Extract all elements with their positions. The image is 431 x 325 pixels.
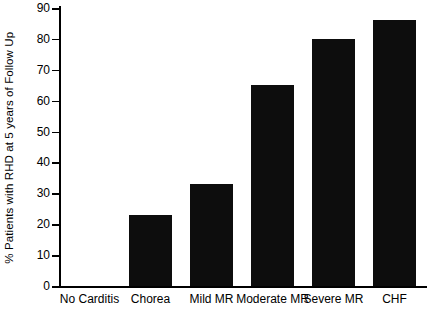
y-tick-mark [52,70,59,72]
y-tick-label: 50 [37,126,50,138]
x-tick-label: Moderate MR [236,292,309,306]
y-tick-label: 40 [37,156,50,168]
bar-chart-figure: % Patients with RHD at 5 years of Follow… [0,0,431,325]
y-tick-mark [52,101,59,103]
bar [190,184,233,286]
bar [373,20,416,286]
x-axis-line [59,286,427,288]
y-tick-label: 70 [37,64,50,76]
y-tick-mark [52,8,59,10]
y-tick-label: 80 [37,33,50,45]
x-tick-label: Severe MR [303,292,363,306]
y-tick-mark [52,39,59,41]
y-tick-label: 90 [37,2,50,14]
bar [312,39,355,286]
y-tick-label: 60 [37,95,50,107]
y-tick-label: 20 [37,218,50,230]
y-tick-mark [52,132,59,134]
x-tick-label: CHF [382,292,407,306]
x-axis-tick-labels: No CarditisChoreaMild MRModerate MRSever… [0,292,431,316]
y-tick-label: 0 [43,280,50,292]
bar [251,85,294,286]
plot-area: 0102030405060708090 [59,8,425,286]
y-tick-mark [52,224,59,226]
y-tick-label: 10 [37,249,50,261]
bar [129,215,172,286]
y-tick-mark [52,193,59,195]
y-tick-mark [52,286,59,288]
x-tick-label: Mild MR [190,292,234,306]
y-tick-label: 30 [37,187,50,199]
y-axis-title-text: % Patients with RHD at 5 years of Follow… [4,32,16,264]
x-tick-label: Chorea [131,292,170,306]
y-tick-mark [52,255,59,257]
y-axis-title: % Patients with RHD at 5 years of Follow… [0,0,20,296]
x-tick-label: No Carditis [60,292,119,306]
y-tick-mark [52,162,59,164]
